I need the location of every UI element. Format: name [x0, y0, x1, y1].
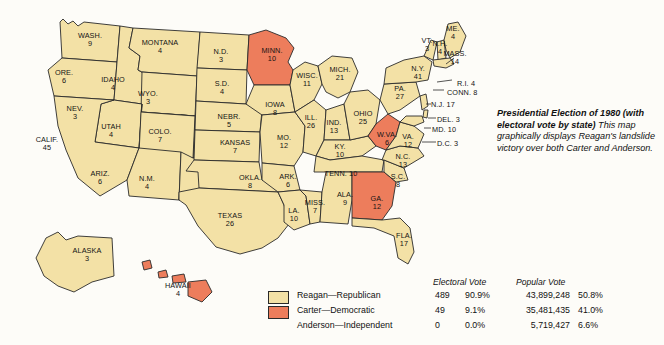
legend-candidate-name: Anderson—Independent [297, 320, 392, 330]
legend-rows: Reagan—Republican48990.9%43,899,24850.8%… [268, 289, 658, 334]
legend-swatch-carter [268, 306, 289, 319]
legend-popular-pct: 41.0% [578, 305, 603, 315]
state-hawaii-maui[interactable] [172, 274, 186, 283]
legend-candidate-name: Carter—Democratic [297, 305, 375, 315]
map-state-shapes [36, 19, 466, 302]
map-legend: Electoral Vote Popular Vote Reagan—Repub… [268, 277, 658, 334]
state-texas[interactable] [179, 188, 289, 254]
legend-header-row: Electoral Vote Popular Vote [268, 277, 658, 289]
state-hawaii-oahu[interactable] [158, 270, 168, 278]
state-montana[interactable] [129, 28, 200, 76]
legend-popular-votes: 35,481,435 [504, 305, 570, 315]
state-delaware[interactable] [423, 110, 428, 118]
us-electoral-map [0, 0, 470, 320]
legend-popular-votes: 43,899,248 [504, 290, 570, 300]
legend-row[interactable]: Reagan—Republican48990.9%43,899,24850.8% [268, 289, 658, 304]
legend-header-electoral-vote: Electoral Vote [433, 277, 486, 287]
state-maine[interactable] [444, 22, 466, 58]
figure-caption: Presidential Election of 1980 (with elec… [497, 108, 657, 154]
state-new-york[interactable] [384, 56, 432, 84]
legend-popular-pct: 50.8% [578, 290, 603, 300]
state-south-dakota[interactable] [196, 68, 247, 104]
legend-electoral-votes: 489 [435, 290, 450, 300]
legend-candidate-name: Reagan—Republican [297, 290, 381, 300]
state-new-jersey[interactable] [420, 94, 428, 110]
state-nevada[interactable] [95, 100, 142, 148]
state-missouri[interactable] [260, 112, 305, 166]
legend-swatch-reagan [268, 291, 289, 304]
legend-row[interactable]: Anderson—Independent00.0%5,719,4276.6% [268, 319, 658, 334]
state-massachusetts[interactable] [433, 58, 454, 68]
legend-electoral-votes: 49 [435, 305, 445, 315]
state-wyoming[interactable] [141, 72, 197, 116]
legend-header-popular-vote: Popular Vote [516, 277, 565, 287]
state-georgia[interactable] [352, 172, 396, 220]
state-kentucky[interactable] [316, 136, 376, 160]
state-kansas[interactable] [194, 130, 260, 162]
state-vermont[interactable] [424, 40, 437, 60]
electoral-map-figure: WASH.9ORE.6IDAHO4MONTANA4WYO.3NEV.3UTAH4… [0, 0, 664, 345]
legend-row[interactable]: Carter—Democratic499.1%35,481,43541.0% [268, 304, 658, 319]
state-washington[interactable] [60, 19, 120, 62]
legend-electoral-votes: 0 [435, 320, 440, 330]
state-florida[interactable] [352, 218, 414, 264]
state-hawaii-kauai[interactable] [142, 260, 152, 270]
state-oregon[interactable] [48, 58, 117, 100]
state-north-dakota[interactable] [197, 32, 249, 70]
state-hawaii-big-island[interactable] [188, 280, 212, 302]
state-minnesota[interactable] [247, 30, 294, 85]
legend-electoral-pct: 9.1% [465, 305, 485, 315]
leader-line-rhode-island [437, 80, 452, 82]
legend-electoral-pct: 0.0% [465, 320, 485, 330]
legend-popular-pct: 6.6% [578, 320, 598, 330]
state-pennsylvania[interactable] [380, 82, 420, 114]
state-tennessee[interactable] [314, 156, 384, 172]
legend-popular-votes: 5,719,427 [504, 320, 570, 330]
state-alaska[interactable] [36, 232, 114, 292]
state-alabama[interactable] [320, 172, 352, 224]
legend-electoral-pct: 90.9% [465, 290, 490, 300]
